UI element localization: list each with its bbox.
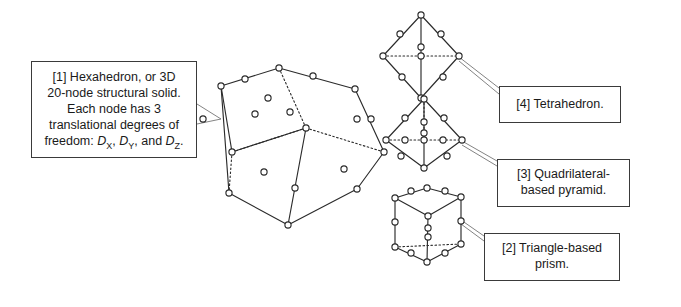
quadrilateral-based-pyramid-13-node-solid-node bbox=[440, 137, 446, 143]
triangle-based-prism-15-node-solid-edge bbox=[395, 198, 428, 216]
quadrilateral-based-pyramid-13-node-solid-edge bbox=[424, 140, 462, 168]
hexahedron-20-node-solid-node bbox=[292, 185, 298, 191]
triangle-based-prism-15-node-solid-hidden-edge bbox=[395, 244, 461, 247]
callout-hexahedron-line4: translational degrees of bbox=[38, 117, 190, 133]
callout-tetrahedron: [4] Tetrahedron. bbox=[499, 86, 621, 123]
dof-suffix: . bbox=[180, 134, 183, 148]
hexahedron-20-node-solid-edge bbox=[288, 128, 306, 225]
quadrilateral-based-pyramid-13-node-solid-edge bbox=[386, 140, 424, 168]
hexahedron-20-node-solid-node bbox=[252, 111, 258, 117]
hexahedron-20-node-solid-node bbox=[242, 76, 248, 82]
tetrahedron-10-node-solid-node bbox=[380, 53, 386, 59]
leader-pyramid-lower bbox=[462, 145, 497, 166]
callout-tetrahedron-label: [4] Tetrahedron. bbox=[506, 96, 614, 112]
triangle-based-prism-15-node-solid-node bbox=[392, 219, 398, 225]
hexahedron-20-node-solid-node bbox=[381, 149, 387, 155]
quadrilateral-based-pyramid-13-node-solid-node bbox=[402, 115, 408, 121]
tetrahedron-10-node-solid-node bbox=[399, 74, 405, 80]
triangle-based-prism-15-node-solid-node bbox=[442, 188, 448, 194]
triangle-based-prism-15-node-solid-node bbox=[442, 250, 448, 256]
callout-hexahedron-line3: Each node has 3 bbox=[38, 101, 190, 117]
hexahedron-20-node-solid-edge bbox=[357, 152, 384, 189]
hexahedron-20-node-solid-edge bbox=[229, 193, 288, 225]
callout-hexahedron-line5: freedom: DX, DY, and DZ. bbox=[38, 133, 190, 152]
triangle-based-prism-15-node-solid-node bbox=[408, 188, 414, 194]
quadrilateral-based-pyramid-13-node-solid-node bbox=[421, 137, 427, 143]
callout-pyramid: [3] Quadrilateral- based pyramid. bbox=[497, 159, 630, 207]
tetrahedron-10-node-solid bbox=[380, 12, 462, 101]
triangle-based-prism-15-node-solid-node bbox=[458, 194, 464, 200]
hexahedron-20-node-solid-node bbox=[276, 65, 282, 71]
triangle-based-prism-15-node-solid-node bbox=[392, 195, 398, 201]
triangle-based-prism-15-node-solid-node bbox=[392, 244, 398, 250]
dof-dy: DY bbox=[119, 134, 134, 148]
leader-tetrahedron-lower bbox=[459, 61, 499, 94]
triangle-based-prism-15-node-solid-node bbox=[458, 218, 464, 224]
callout-prism-line2: prism. bbox=[491, 256, 613, 272]
hexahedron-20-node-solid-node bbox=[354, 116, 360, 122]
hexahedron-20-node-solid-edge bbox=[221, 86, 229, 193]
tetrahedron-10-node-solid-node bbox=[456, 53, 462, 59]
hexahedron-20-node-solid-edge bbox=[288, 189, 357, 225]
quadrilateral-based-pyramid-13-node-solid-node bbox=[398, 153, 404, 159]
callout-hexahedron-line1: [1] Hexahedron, or 3D bbox=[38, 69, 190, 85]
quadrilateral-based-pyramid-13-node-solid-node bbox=[402, 137, 408, 143]
callout-pyramid-line2: based pyramid. bbox=[504, 182, 623, 198]
tetrahedron-10-node-solid-node bbox=[418, 44, 424, 50]
leader-prism-lower bbox=[461, 224, 484, 241]
triangle-based-prism-15-node-solid-edge bbox=[428, 197, 461, 216]
hexahedron-20-node-solid-node bbox=[200, 116, 206, 122]
quadrilateral-based-pyramid-13-node-solid-node bbox=[421, 130, 427, 136]
quadrilateral-based-pyramid-13-node-solid-node bbox=[383, 137, 389, 143]
leader-prism-upper bbox=[461, 220, 484, 236]
hexahedron-20-node-solid-node bbox=[354, 186, 360, 192]
tetrahedron-10-node-solid-node bbox=[418, 53, 424, 59]
quadrilateral-based-pyramid-13-node-solid-node bbox=[441, 115, 447, 121]
triangle-based-prism-15-node-solid-node bbox=[458, 241, 464, 247]
hexahedron-20-node-solid-node bbox=[352, 86, 358, 92]
hexahedron-20-node-solid-edge bbox=[279, 68, 355, 89]
quadrilateral-based-pyramid-13-node-solid bbox=[383, 96, 465, 171]
quadrilateral-based-pyramid-13-node-solid-node bbox=[459, 137, 465, 143]
triangle-based-prism-15-node-solid-node bbox=[425, 213, 431, 219]
leader-tetrahedron-upper bbox=[459, 57, 499, 88]
leader-pyramid-upper bbox=[462, 141, 497, 161]
callout-hexahedron-line2: 20-node structural solid. bbox=[38, 85, 190, 101]
solid-element-group bbox=[200, 12, 465, 265]
hexahedron-20-node-solid-node bbox=[368, 116, 374, 122]
callout-hexahedron: [1] Hexahedron, or 3D 20-node structural… bbox=[31, 61, 197, 158]
triangle-based-prism-15-node-solid-node bbox=[425, 225, 431, 231]
dof-dz: DZ bbox=[166, 134, 181, 148]
hexahedron-20-node-solid-edge bbox=[221, 68, 279, 86]
hexahedron-20-node-solid-node bbox=[287, 109, 293, 115]
hexahedron-20-node-solid-edge bbox=[232, 128, 306, 152]
quadrilateral-based-pyramid-13-node-solid-node bbox=[421, 96, 427, 102]
quadrilateral-based-pyramid-13-node-solid-node bbox=[421, 119, 427, 125]
quadrilateral-based-pyramid-13-node-solid-node bbox=[444, 153, 450, 159]
hexahedron-20-node-solid-node bbox=[310, 73, 316, 79]
callout-pyramid-line1: [3] Quadrilateral- bbox=[504, 166, 623, 182]
hexahedron-20-node-solid-hidden-edge bbox=[229, 152, 232, 193]
callout-prism-line1: [2] Triangle-based bbox=[491, 240, 613, 256]
triangle-based-prism-15-node-solid-node bbox=[408, 250, 414, 256]
hexahedron-20-node-solid-node bbox=[261, 169, 267, 175]
hexahedron-20-node-solid-node bbox=[229, 149, 235, 155]
quadrilateral-based-pyramid-13-node-solid-node bbox=[421, 165, 427, 171]
hexahedron-20-node-solid-node bbox=[285, 222, 291, 228]
dof-dx: DX bbox=[97, 134, 112, 148]
triangle-based-prism-15-node-solid-node bbox=[424, 259, 430, 265]
hexahedron-20-node-solid-hidden-edge bbox=[279, 68, 306, 128]
triangle-based-prism-15-node-solid-node bbox=[424, 185, 430, 191]
tetrahedron-10-node-solid-node bbox=[397, 31, 403, 37]
hexahedron-20-node-solid-hidden-edge bbox=[306, 128, 384, 152]
hexahedron-20-node-solid-node bbox=[218, 83, 224, 89]
triangle-based-prism-15-node-solid bbox=[392, 185, 464, 265]
hexahedron-20-node-solid bbox=[200, 65, 387, 228]
hexahedron-20-node-solid-node bbox=[303, 125, 309, 131]
dof-prefix: freedom: bbox=[44, 134, 97, 148]
dof-separator-2: , and bbox=[134, 134, 165, 148]
callout-prism: [2] Triangle-based prism. bbox=[484, 233, 620, 281]
hexahedron-20-node-solid-edge bbox=[221, 86, 232, 152]
tetrahedron-10-node-solid-node bbox=[438, 31, 444, 37]
tetrahedron-10-node-solid-node bbox=[418, 12, 424, 18]
